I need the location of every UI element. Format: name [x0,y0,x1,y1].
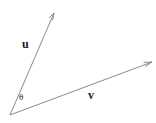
angle-theta-label: θ [19,93,23,102]
vector-u-label: u [22,38,29,50]
vector-v-label: v [88,89,94,101]
vector-angle-figure: u v θ [0,0,156,123]
vector-u-shaft [10,13,54,115]
vector-diagram-canvas [0,0,156,123]
vector-v-shaft [10,62,152,115]
